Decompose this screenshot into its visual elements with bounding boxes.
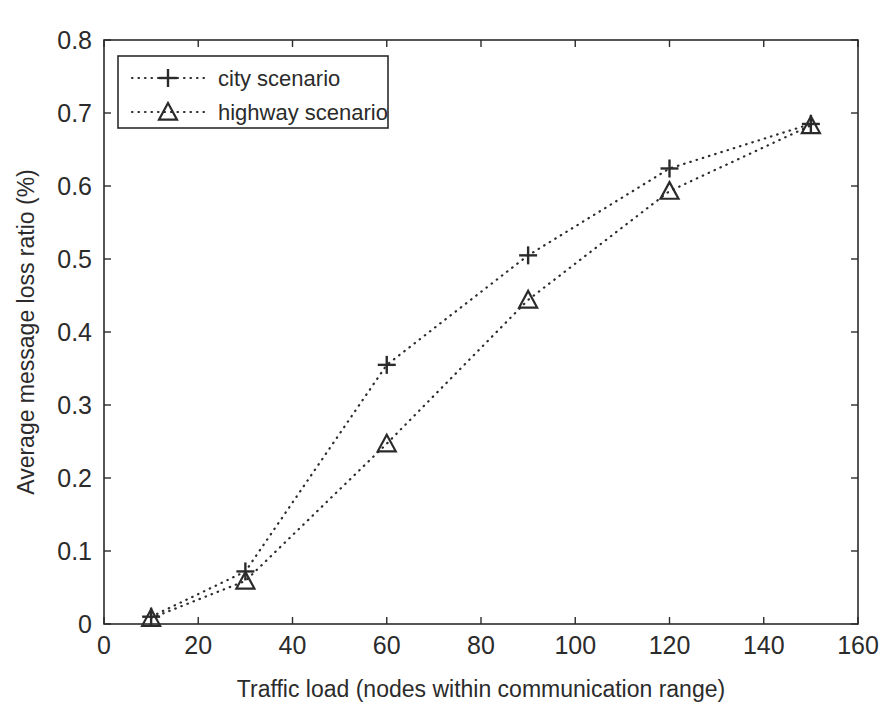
x-tick-label-100: 100 bbox=[554, 631, 596, 659]
x-tick-label-40: 40 bbox=[279, 631, 307, 659]
x-tick-label-20: 20 bbox=[184, 631, 212, 659]
y-tick-label-0.1: 0.1 bbox=[57, 537, 92, 565]
y-tick-label-0.8: 0.8 bbox=[57, 26, 92, 54]
x-tick-label-80: 80 bbox=[467, 631, 495, 659]
y-axis-label: Average message loss ratio (%) bbox=[13, 169, 39, 495]
series-line-1 bbox=[151, 125, 811, 618]
y-tick-label-0.3: 0.3 bbox=[57, 391, 92, 419]
line-chart: 02040608010012014016000.10.20.30.40.50.6… bbox=[0, 0, 883, 714]
y-tick-label-0: 0 bbox=[78, 610, 92, 638]
y-tick-label-0.6: 0.6 bbox=[57, 172, 92, 200]
x-tick-label-0: 0 bbox=[97, 631, 111, 659]
x-tick-label-120: 120 bbox=[649, 631, 691, 659]
series-line-0 bbox=[151, 124, 811, 617]
x-tick-label-60: 60 bbox=[373, 631, 401, 659]
legend-label-0: city scenario bbox=[218, 66, 340, 91]
y-tick-label-0.2: 0.2 bbox=[57, 464, 92, 492]
y-tick-label-0.5: 0.5 bbox=[57, 245, 92, 273]
legend-label-1: highway scenario bbox=[218, 100, 388, 125]
x-tick-label-160: 160 bbox=[837, 631, 879, 659]
y-tick-label-0.7: 0.7 bbox=[57, 99, 92, 127]
x-tick-label-140: 140 bbox=[743, 631, 785, 659]
y-tick-label-0.4: 0.4 bbox=[57, 318, 92, 346]
figure-container: 02040608010012014016000.10.20.30.40.50.6… bbox=[0, 0, 883, 714]
x-axis-label: Traffic load (nodes within communication… bbox=[237, 676, 725, 702]
